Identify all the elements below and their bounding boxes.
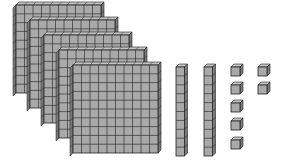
unit-cube-block (258, 82, 270, 94)
unit-cube-block (231, 82, 243, 94)
unit-cube-block (231, 118, 243, 130)
blocks-canvas (0, 0, 289, 164)
hundred-flat-block (70, 62, 161, 156)
unit-cube-block (231, 100, 243, 112)
base-ten-blocks-diagram: Base-ten blocks representation (0, 0, 289, 164)
unit-cube-block (231, 64, 243, 76)
unit-cube-block (231, 137, 243, 149)
ten-rod-block (176, 64, 188, 156)
ten-rod-block (204, 64, 216, 156)
unit-cube-block (258, 64, 270, 76)
